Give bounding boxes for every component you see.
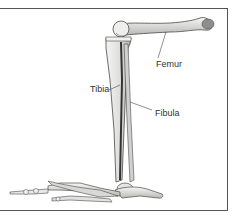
label-tibia: Tibia bbox=[90, 84, 109, 94]
label-fibula: Fibula bbox=[155, 108, 180, 118]
leg-skeleton-illustration bbox=[0, 0, 237, 220]
femur-leader-line bbox=[158, 32, 166, 58]
fibula-leader-line bbox=[130, 102, 152, 110]
foot-bones bbox=[10, 181, 120, 202]
fibula-bone bbox=[124, 44, 134, 182]
ankle-bones bbox=[115, 183, 163, 198]
label-femur: Femur bbox=[156, 59, 182, 69]
femur-bone bbox=[113, 17, 214, 37]
